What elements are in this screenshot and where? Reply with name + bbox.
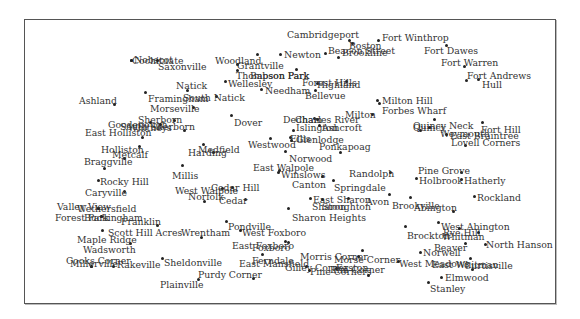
place-marker-icon: [415, 177, 418, 180]
place-label: Rockland: [477, 193, 521, 203]
place-label: Sharon Heights: [292, 213, 366, 223]
place-marker-icon: [321, 175, 324, 178]
place-label: Whitman: [442, 232, 485, 242]
place-label: Fort Hill: [481, 125, 521, 135]
place-marker-icon: [260, 88, 263, 91]
place-marker-icon: [440, 276, 443, 279]
place-label: Sheldonville: [164, 258, 222, 268]
place-marker-icon: [437, 221, 440, 224]
place-marker-icon: [309, 197, 312, 200]
place-label: Brookline: [342, 48, 388, 58]
place-label: Natick: [176, 81, 207, 91]
place-marker-icon: [377, 39, 380, 42]
place-marker-icon: [460, 178, 463, 181]
place-label: Springdale: [334, 183, 386, 193]
place-label: Fort Winthrop: [382, 33, 449, 43]
place-marker-icon: [477, 78, 480, 81]
place-label: Wadsworth: [83, 245, 136, 255]
place-label: West Foxboro: [242, 228, 306, 238]
place-label: Harding: [188, 148, 227, 158]
place-label: Newton: [284, 50, 321, 60]
place-marker-icon: [292, 129, 295, 132]
place-label: Holbrook: [419, 176, 463, 186]
place-marker-icon: [103, 167, 106, 170]
place-label: Franklin: [121, 217, 161, 227]
place-marker-icon: [409, 196, 412, 199]
place-label: Ashcroft: [322, 123, 362, 133]
place-label: Elm Corner: [330, 265, 385, 275]
place-marker-icon: [224, 80, 227, 83]
place-marker-icon: [287, 207, 290, 210]
place-label: North Hanson: [486, 240, 553, 250]
place-label: Norwell: [423, 248, 461, 258]
place-label: Millis: [172, 171, 198, 181]
place-marker-icon: [277, 171, 280, 174]
place-label: Rocky Hill: [100, 177, 149, 187]
place-label: Avon: [366, 197, 389, 207]
place-label: Highland: [317, 80, 360, 90]
place-marker-icon: [324, 52, 327, 55]
place-marker-icon: [181, 164, 184, 167]
place-marker-icon: [230, 114, 233, 117]
place-label: Ashland: [79, 96, 117, 106]
place-label: Cambridgeport: [287, 30, 359, 40]
place-marker-icon: [473, 195, 476, 198]
place-marker-icon: [279, 53, 282, 56]
place-label: Purdy Corner: [198, 270, 262, 280]
place-label: Ponkapoag: [319, 142, 371, 152]
place-label: Randolph: [349, 169, 394, 179]
place-marker-icon: [337, 56, 340, 59]
place-label: Bellevue: [305, 91, 346, 101]
place-label: Lovell Corners: [451, 138, 520, 148]
place-label: Saxonville: [158, 62, 206, 72]
place-marker-icon: [284, 150, 287, 153]
place-label: East Holliston: [85, 128, 152, 138]
place-marker-icon: [378, 102, 381, 105]
place-label: Rakeville: [117, 260, 161, 270]
place-marker-icon: [144, 91, 147, 94]
place-label: Fort Warren: [441, 58, 498, 68]
place-label: Plainville: [160, 280, 203, 290]
place-label: Braggville: [84, 157, 132, 167]
place-marker-icon: [290, 139, 293, 142]
place-label: Hull: [482, 80, 502, 90]
place-marker-icon: [130, 59, 133, 62]
place-marker-icon: [419, 251, 422, 254]
place-label: Curtisville: [464, 261, 513, 271]
place-marker-icon: [428, 126, 431, 129]
place-label: Stoughton: [322, 202, 371, 212]
place-label: Westwood: [248, 140, 296, 150]
place-label: Caryville: [85, 188, 127, 198]
place-marker-icon: [318, 124, 321, 127]
place-label: Cedar: [219, 196, 248, 206]
place-marker-icon: [445, 133, 448, 136]
place-marker-icon: [112, 265, 115, 268]
place-label: Stanley: [430, 284, 465, 294]
place-label: Fort Dawes: [424, 46, 478, 56]
place-label: Millerville: [70, 259, 118, 269]
place-label: Abington: [414, 203, 457, 213]
place-marker-icon: [404, 225, 407, 228]
place-label: Wrentham: [181, 228, 230, 238]
place-label: Elmwood: [445, 273, 489, 283]
place-label: Morseville: [150, 104, 200, 114]
place-label: Dover: [234, 118, 262, 128]
place-label: Hatherly: [464, 176, 506, 186]
place-marker-icon: [101, 229, 104, 232]
place-label: Foxboro: [252, 243, 290, 253]
place-label: Canton: [292, 180, 326, 190]
place-label: Forbes Wharf: [382, 106, 446, 116]
